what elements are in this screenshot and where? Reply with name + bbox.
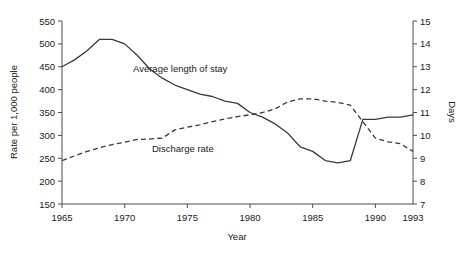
- right-tick-label: 11: [420, 107, 430, 118]
- right-axis: 789101112131415 Days: [413, 16, 458, 210]
- right-tick-label: 15: [420, 16, 431, 27]
- left-axis-ticks: [58, 21, 62, 204]
- x-tick-label: 1970: [114, 212, 135, 223]
- right-tick-label: 7: [420, 199, 425, 210]
- left-tick-label: 500: [39, 38, 55, 49]
- line-chart-svg: 150200250300350400450500550 Rate per 1,0…: [0, 0, 464, 254]
- right-tick-label: 14: [420, 38, 431, 49]
- annotation-average-length-of-stay: Average length of stay: [133, 63, 228, 74]
- bottom-axis: 1965197019751980198519901993 Year: [51, 204, 423, 242]
- right-axis-title: Days: [447, 101, 458, 123]
- left-tick-label: 300: [39, 130, 55, 141]
- x-tick-label: 1993: [402, 212, 423, 223]
- left-axis-tick-labels: 150200250300350400450500550: [39, 16, 55, 210]
- left-tick-label: 200: [39, 176, 55, 187]
- right-axis-ticks: [413, 21, 417, 204]
- left-axis-title: Rate per 1,000 people: [8, 65, 19, 159]
- left-tick-label: 250: [39, 153, 55, 164]
- x-tick-label: 1965: [51, 212, 72, 223]
- x-tick-label: 1975: [177, 212, 198, 223]
- right-tick-label: 13: [420, 61, 431, 72]
- left-tick-label: 400: [39, 84, 55, 95]
- left-tick-label: 550: [39, 16, 55, 27]
- series-line-average-length-of-stay: [62, 39, 413, 163]
- left-tick-label: 350: [39, 107, 55, 118]
- right-tick-label: 12: [420, 84, 431, 95]
- left-axis: 150200250300350400450500550 Rate per 1,0…: [8, 16, 62, 210]
- right-tick-label: 8: [420, 176, 425, 187]
- x-tick-label: 1980: [239, 212, 260, 223]
- left-tick-label: 450: [39, 61, 55, 72]
- right-tick-label: 10: [420, 130, 431, 141]
- x-axis-ticks: [62, 204, 375, 208]
- series-annotations: Average length of stay Discharge rate: [133, 63, 228, 154]
- series-group: [62, 39, 413, 163]
- annotation-discharge-rate: Discharge rate: [152, 143, 214, 154]
- x-tick-label: 1985: [302, 212, 323, 223]
- left-tick-label: 150: [39, 199, 55, 210]
- x-axis-title: Year: [227, 231, 246, 242]
- right-tick-label: 9: [420, 153, 425, 164]
- right-axis-tick-labels: 789101112131415: [420, 16, 431, 210]
- x-tick-label: 1990: [365, 212, 386, 223]
- x-axis-tick-labels: 1965197019751980198519901993: [51, 212, 423, 223]
